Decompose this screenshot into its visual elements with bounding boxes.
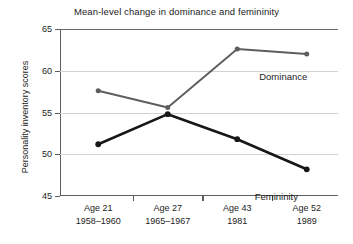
series-label-dominance: Dominance: [259, 71, 307, 82]
x-category-years-3: 1989: [292, 215, 321, 228]
x-category-label-3: Age 52: [292, 202, 321, 215]
x-category-label-0: Age 21: [76, 202, 121, 215]
plot-area: 4550556065 DominanceFemininity: [60, 29, 338, 196]
x-category-years-2: 1981: [223, 215, 252, 228]
x-category-years-0: 1958–1960: [76, 215, 121, 228]
series-layer: [60, 29, 338, 196]
y-tick-mark-55: [55, 113, 60, 114]
y-tick-label-65: 65: [42, 24, 52, 34]
x-category-0: Age 211958–1960: [76, 202, 121, 227]
data-point-dominance-1: [165, 105, 170, 110]
chart-container: Mean-level change in dominance and femin…: [0, 0, 353, 244]
series-label-femininity: Femininity: [255, 191, 298, 202]
data-point-dominance-3: [304, 52, 309, 57]
data-point-femininity-1: [165, 111, 171, 117]
y-tick-mark-65: [55, 29, 60, 30]
x-category-label-2: Age 43: [223, 202, 252, 215]
data-point-dominance-2: [235, 47, 240, 52]
x-tick-mark-1: [133, 196, 134, 201]
y-tick-label-50: 50: [42, 149, 52, 159]
y-tick-label-55: 55: [42, 108, 52, 118]
chart-title: Mean-level change in dominance and femin…: [0, 6, 353, 17]
x-category-2: Age 431981: [223, 202, 252, 227]
data-point-dominance-0: [96, 88, 101, 93]
series-line-femininity: [98, 114, 307, 169]
y-tick-label-60: 60: [42, 66, 52, 76]
x-category-years-1: 1965–1967: [145, 215, 190, 228]
x-category-3: Age 521989: [292, 202, 321, 227]
y-tick-mark-60: [55, 71, 60, 72]
data-point-femininity-0: [95, 141, 101, 147]
y-axis-title: Personality inventory scores: [20, 32, 30, 202]
data-point-femininity-2: [234, 136, 240, 142]
x-category-label-1: Age 27: [145, 202, 190, 215]
y-tick-label-45: 45: [42, 191, 52, 201]
data-point-femininity-3: [304, 166, 310, 172]
y-tick-mark-50: [55, 154, 60, 155]
x-axis-labels: Age 211958–1960Age 271965–1967Age 431981…: [60, 202, 338, 242]
x-tick-mark-2: [202, 196, 203, 201]
y-tick-mark-45: [55, 196, 60, 197]
x-category-1: Age 271965–1967: [145, 202, 190, 227]
